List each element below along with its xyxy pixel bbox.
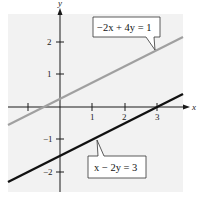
x-tick-label-1: 1	[90, 112, 95, 122]
x-tick-label-2: 2	[122, 112, 127, 122]
x-tick-label-3: 3	[155, 112, 160, 122]
chart: x y 1 2 3 2 1 −1 −2 −2x + 4y = 1 x − 2y …	[0, 0, 200, 197]
y-tick-label-neg2: −2	[43, 167, 53, 177]
eq1-label: −2x + 4y = 1	[97, 22, 152, 33]
y-tick-label-2: 2	[47, 37, 52, 47]
y-axis-arrow-icon	[58, 8, 63, 15]
y-tick-label-neg1: −1	[43, 134, 53, 144]
y-tick-label-1: 1	[47, 69, 52, 79]
eq2-label: x − 2y = 3	[94, 162, 137, 173]
x-axis-label: x	[191, 102, 196, 112]
x-axis-arrow-icon	[183, 105, 190, 110]
y-axis-label: y	[57, 0, 62, 8]
